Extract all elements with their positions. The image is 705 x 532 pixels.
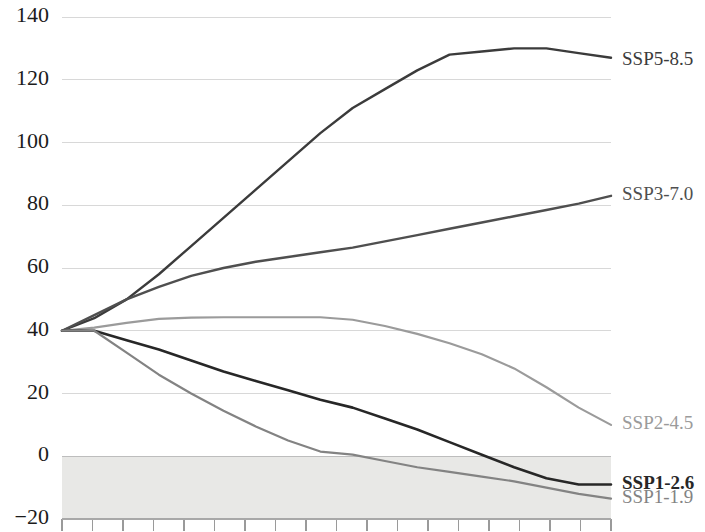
series-label-ssp2-4.5: SSP2-4.5 [622,412,693,433]
emissions-line-chart: −20020406080100120140 SSP5-8.5SSP3-7.0SS… [0,0,705,532]
y-axis-label-20: 20 [27,379,49,404]
negative-band-rect [62,456,611,519]
y-axis-tick-labels: −20020406080100120140 [15,2,49,529]
gridlines [62,17,611,456]
series-line-ssp2-4.5 [62,317,611,425]
series-label-ssp3-7.0: SSP3-7.0 [622,183,693,204]
y-axis-label-120: 120 [16,65,49,90]
x-axis-ticks [62,519,611,531]
chart-container: −20020406080100120140 SSP5-8.5SSP3-7.0SS… [0,0,705,532]
series-line-ssp5-8.5 [62,48,611,330]
y-axis-label-100: 100 [16,128,49,153]
y-axis-label-80: 80 [27,190,49,215]
series-label-ssp1-1.9: SSP1-1.9 [622,486,693,507]
series-label-ssp5-8.5: SSP5-8.5 [622,48,693,69]
negative-value-shaded-band [62,456,611,519]
series-line-ssp3-7.0 [62,196,611,331]
y-axis-label-140: 140 [16,2,49,27]
y-axis-label-40: 40 [27,316,49,341]
series-lines [62,48,611,498]
y-axis-label-0: 0 [38,441,49,466]
series-end-labels: SSP5-8.5SSP3-7.0SSP2-4.5SSP1-2.6SSP1-1.9 [622,48,694,507]
y-axis-label-60: 60 [27,253,49,278]
y-axis-label--20: −20 [15,504,49,529]
